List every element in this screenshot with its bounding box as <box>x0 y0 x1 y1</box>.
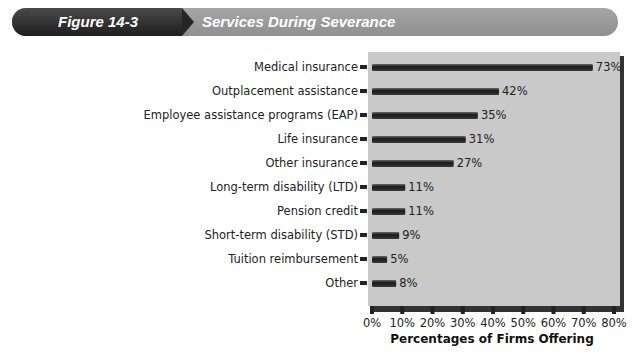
x-tick-label: 50% <box>510 316 536 330</box>
y-tick-mark <box>360 209 367 213</box>
value-label: 27% <box>457 156 483 170</box>
y-tick-mark <box>360 137 367 141</box>
x-tick-label: 0% <box>363 316 381 330</box>
x-tick-mark <box>612 306 616 314</box>
category-label: Tuition reimbursement <box>227 252 358 266</box>
category-label: Long-term disability (LTD) <box>210 180 358 194</box>
y-tick-mark <box>360 161 367 165</box>
x-tick-label: 20% <box>420 316 446 330</box>
bar <box>372 280 396 287</box>
plot-shadow-bottom <box>372 306 624 312</box>
y-tick-mark <box>360 185 367 189</box>
value-label: 8% <box>399 276 417 290</box>
bar <box>372 112 478 119</box>
value-label: 35% <box>481 108 507 122</box>
bar <box>372 136 466 143</box>
x-tick-mark <box>552 306 556 314</box>
value-label: 11% <box>408 180 434 194</box>
category-label: Pension credit <box>277 204 358 218</box>
y-tick-mark <box>360 233 367 237</box>
x-tick-mark <box>400 306 404 314</box>
y-tick-mark <box>360 257 367 261</box>
bar <box>372 88 499 95</box>
category-label: Employee assistance programs (EAP) <box>143 108 358 122</box>
y-tick-mark <box>360 113 367 117</box>
value-label: 73% <box>596 60 622 74</box>
y-tick-mark <box>360 281 367 285</box>
bar-chart: Medical insurance73%Outplacement assista… <box>0 0 633 361</box>
value-label: 11% <box>408 204 434 218</box>
x-tick-mark <box>582 306 586 314</box>
bar <box>372 256 387 263</box>
x-tick-label: 40% <box>480 316 506 330</box>
x-tick-mark <box>431 306 435 314</box>
x-tick-mark <box>491 306 495 314</box>
x-tick-mark <box>370 306 374 314</box>
value-label: 42% <box>502 84 528 98</box>
category-label: Outplacement assistance <box>212 84 358 98</box>
x-tick-label: 30% <box>450 316 476 330</box>
x-tick-label: 60% <box>541 316 567 330</box>
x-tick-mark <box>461 306 465 314</box>
plot-shadow-right <box>620 56 624 312</box>
category-label: Life insurance <box>277 132 358 146</box>
x-tick-label: 80% <box>601 316 627 330</box>
x-tick-mark <box>521 306 525 314</box>
y-tick-mark <box>360 89 367 93</box>
x-axis-label: Percentages of Firms Offering <box>390 332 593 346</box>
x-tick-label: 10% <box>389 316 415 330</box>
category-label: Short-term disability (STD) <box>204 228 358 242</box>
bar <box>372 160 454 167</box>
value-label: 5% <box>390 252 408 266</box>
category-label: Medical insurance <box>254 60 358 74</box>
bar <box>372 184 405 191</box>
bar <box>372 64 593 71</box>
category-label: Other insurance <box>265 156 358 170</box>
bar <box>372 208 405 215</box>
value-label: 9% <box>402 228 420 242</box>
x-tick-label: 70% <box>571 316 597 330</box>
y-tick-mark <box>360 65 367 69</box>
value-label: 31% <box>469 132 495 146</box>
bar <box>372 232 399 239</box>
category-label: Other <box>325 276 358 290</box>
